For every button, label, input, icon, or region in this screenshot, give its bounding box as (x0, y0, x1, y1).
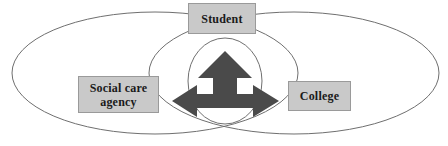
node-college[interactable]: College (288, 81, 351, 111)
node-student[interactable]: Student (188, 3, 256, 34)
diagram-root: Student Social care agency College (0, 0, 448, 146)
node-social-care-agency[interactable]: Social care agency (78, 76, 159, 113)
